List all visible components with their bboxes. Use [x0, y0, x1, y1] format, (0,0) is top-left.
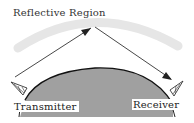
transmitter-label: Transmitter [13, 101, 79, 112]
transmitter-antenna-icon [11, 82, 27, 95]
receiver-label: Receiver [132, 99, 180, 110]
incident-arrowhead-icon [81, 28, 91, 36]
radio-propagation-diagram: Reflective Region Transmitter Receiver [0, 0, 194, 123]
receiver-antenna-icon [170, 81, 183, 96]
reflective-region-band [18, 22, 178, 48]
reflective-region-label: Reflective Region [13, 7, 106, 18]
reflected-arrowhead-icon [162, 72, 172, 80]
